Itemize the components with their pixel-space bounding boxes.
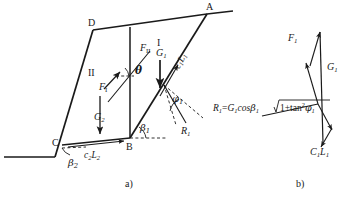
region-label-wedge-2: II [88,68,95,78]
force-vectors-a [68,51,186,147]
force-label-FI: FI [99,82,107,93]
polygon-C1L1-upper [318,104,332,130]
slope-face-CD [55,30,93,157]
point-label-A: A [206,2,213,12]
point-label-B: B [126,142,133,152]
beta2-reference-line [62,147,86,148]
polygon-label-F1: F1 [288,33,298,44]
polygon-G1-line [320,32,323,143]
angle-label-beta1: β1 [140,123,150,134]
caption-a: a) [125,179,133,189]
equation-radicand: 1+tan2φ1 [280,102,315,114]
phi1-normal-dashed [164,85,203,118]
point-label-D: D [88,18,95,28]
polygon-F1-upper [310,32,320,66]
force-c1L1-arrow [160,65,178,96]
force-FII-line [108,51,150,102]
angle-label-theta: θ [135,65,142,76]
polygon-label-G1: G1 [327,62,338,73]
force-label-G1: G1 [156,48,167,59]
beta2-arc [62,148,70,155]
angle-label-beta2: β2 [68,158,78,169]
crest-surface-DA [93,11,233,30]
theta-arc [125,68,129,76]
equation-R1: R1=G1cosβ1 [213,103,259,114]
force-label-R1: R1 [181,126,191,137]
figure-root: D A B C I II FII FI G1 G2 c1L1 c2L2 R1 θ… [0,0,347,197]
force-label-c2L2: c2L2 [84,151,100,161]
force-polygon-b [262,32,332,147]
caption-b: b) [296,179,304,189]
polygon-label-C1L1: C1L1 [310,147,329,158]
angle-label-phi1: φ1 [172,94,183,105]
slope-outline [4,11,233,157]
point-label-C: C [52,138,59,148]
polygon-F1-lower [306,63,318,104]
force-label-G2: G2 [94,112,105,123]
slip-surface-BA [130,14,207,138]
force-label-FII: FII [140,43,151,54]
